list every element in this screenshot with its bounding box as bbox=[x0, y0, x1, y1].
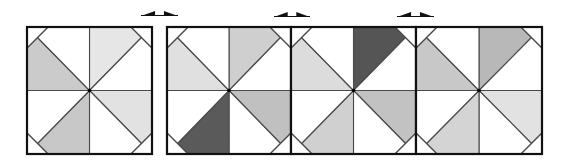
pinwheel-diagram: Pinwheel quilt block with three shading … bbox=[0, 0, 566, 161]
swap-arrow-1 bbox=[141, 11, 178, 16]
diagram-canvas bbox=[0, 0, 566, 161]
swap-arrow-2 bbox=[274, 12, 310, 17]
center-dot bbox=[88, 89, 92, 93]
variation-2 bbox=[291, 27, 416, 154]
variation-3 bbox=[416, 27, 542, 154]
center-dot bbox=[352, 89, 356, 93]
center-dot bbox=[227, 89, 231, 93]
swap-arrow-3 bbox=[397, 12, 434, 17]
center-dot bbox=[477, 89, 481, 93]
variation-1 bbox=[167, 27, 291, 154]
block-original bbox=[27, 27, 152, 154]
